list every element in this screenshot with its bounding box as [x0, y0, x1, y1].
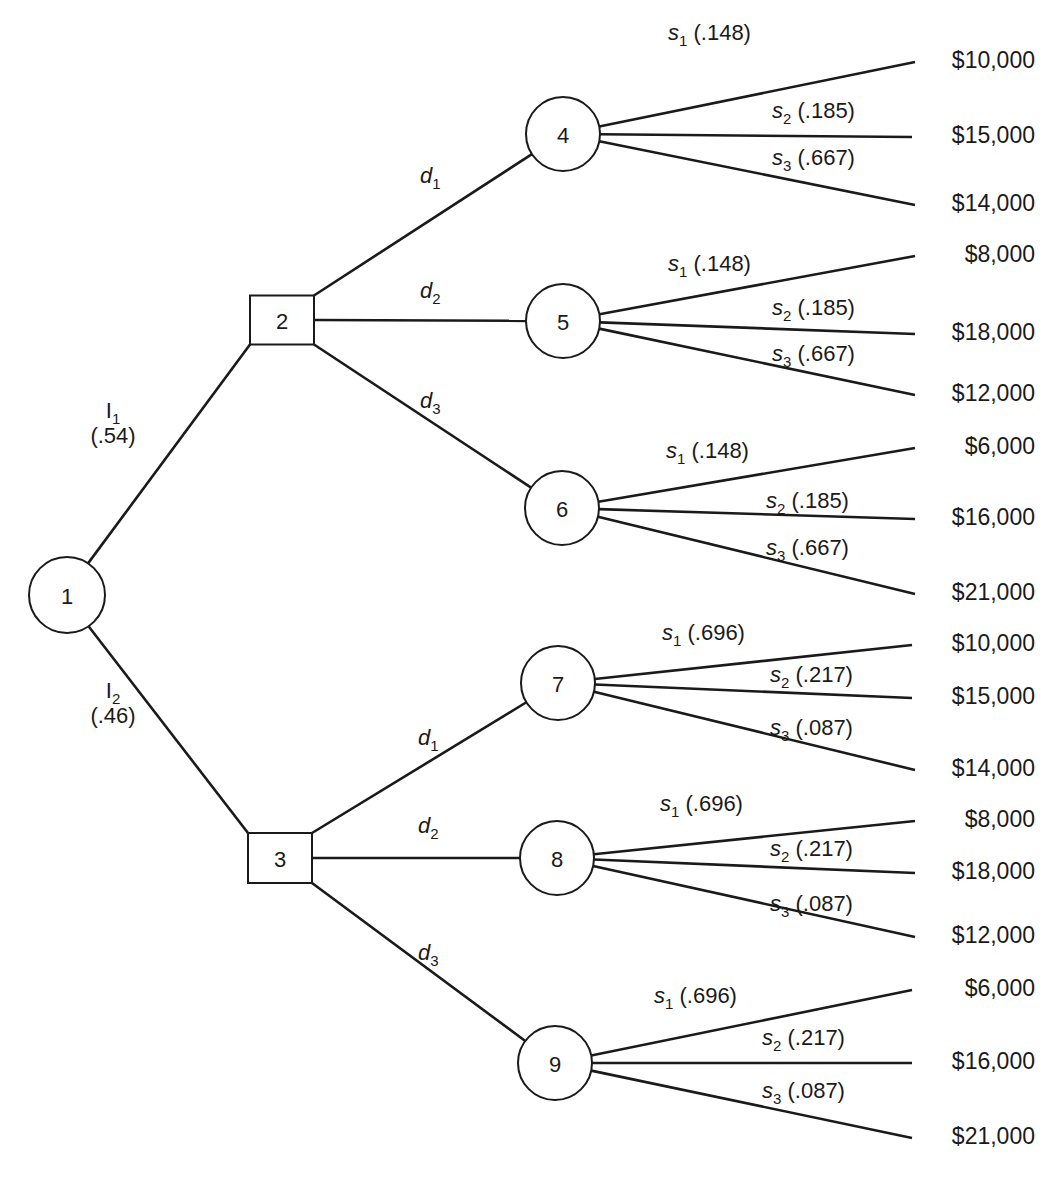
indicator-branch-2	[89, 626, 248, 833]
state-subscript: 1	[673, 632, 681, 649]
state-subscript: 3	[781, 727, 789, 744]
state-symbol: s	[668, 251, 679, 276]
state-label-s3: s3 (.087)	[770, 717, 853, 739]
state-branch-4-s3	[599, 141, 915, 205]
decision-symbol: d	[418, 940, 430, 965]
payoff-value: $8,000	[905, 808, 1035, 831]
state-probability: (.217)	[795, 662, 852, 687]
state-symbol: s	[772, 145, 783, 170]
state-probability: (.148)	[693, 251, 750, 276]
state-branch-9-s3	[591, 1071, 912, 1138]
node-number: 9	[549, 1052, 561, 1077]
state-subscript: 3	[781, 903, 789, 920]
state-symbol: s	[770, 836, 781, 861]
state-symbol: s	[660, 791, 671, 816]
state-subscript: 1	[679, 32, 687, 49]
payoff-value: $14,000	[905, 192, 1035, 215]
decision-branch-2-5	[314, 320, 526, 321]
payoff-value: $12,000	[905, 382, 1035, 405]
node-number: 6	[556, 497, 568, 522]
state-label-s1: s1 (.696)	[660, 793, 743, 815]
payoff-value: $8,000	[905, 243, 1035, 266]
state-probability: (.185)	[797, 295, 854, 320]
state-probability: (.696)	[687, 620, 744, 645]
state-subscript: 3	[783, 353, 791, 370]
payoff-value: $21,000	[905, 581, 1035, 604]
decision-subscript: 2	[430, 825, 438, 842]
state-symbol: s	[770, 891, 781, 916]
decision-subscript: 1	[430, 737, 438, 754]
state-branch-4-s2	[600, 134, 912, 137]
state-label-s2: s2 (.217)	[762, 1027, 845, 1049]
state-symbol: s	[772, 341, 783, 366]
decision-symbol: d	[420, 163, 432, 188]
state-probability: (.217)	[787, 1025, 844, 1050]
state-symbol: s	[668, 20, 679, 45]
payoff-value: $18,000	[905, 860, 1035, 883]
node-number: 8	[551, 847, 563, 872]
payoff-value: $10,000	[905, 632, 1035, 655]
indicator-branch-1	[88, 345, 250, 564]
state-branch-8-s3	[593, 866, 915, 937]
node-number: 7	[552, 672, 564, 697]
node-number: 2	[276, 309, 288, 334]
indicator-probability: (.46)	[90, 703, 135, 728]
state-label-s3: s3 (.087)	[762, 1080, 845, 1102]
state-probability: (.148)	[693, 20, 750, 45]
state-branch-5-s3	[599, 329, 915, 395]
decision-branch-2-6	[314, 345, 531, 488]
state-branch-7-s2	[595, 685, 912, 698]
decision-tree: 123456789	[0, 0, 1057, 1190]
state-probability: (.696)	[679, 983, 736, 1008]
state-branch-8-s2	[594, 860, 915, 873]
decision-label-d1: d1	[420, 165, 441, 187]
state-subscript: 2	[783, 307, 791, 324]
state-label-s2: s2 (.217)	[770, 838, 853, 860]
decision-subscript: 3	[430, 952, 438, 969]
state-symbol: s	[766, 488, 777, 513]
state-subscript: 2	[777, 500, 785, 517]
payoff-value: $16,000	[905, 1050, 1035, 1073]
payoff-value: $18,000	[905, 321, 1035, 344]
state-symbol: s	[772, 98, 783, 123]
state-branch-6-s1	[598, 448, 915, 502]
state-label-s1: s1 (.148)	[666, 440, 749, 462]
payoff-value: $10,000	[905, 49, 1035, 72]
state-label-s3: s3 (.667)	[772, 147, 855, 169]
state-probability: (.185)	[797, 98, 854, 123]
state-label-s1: s1 (.148)	[668, 253, 751, 275]
decision-symbol: d	[420, 388, 432, 413]
state-branch-5-s1	[599, 256, 915, 314]
state-label-s3: s3 (.667)	[766, 537, 849, 559]
state-branch-8-s1	[594, 821, 915, 854]
payoff-value: $14,000	[905, 757, 1035, 780]
decision-label-d2: d2	[420, 280, 441, 302]
state-symbol: s	[772, 295, 783, 320]
state-probability: (.696)	[685, 791, 742, 816]
state-branch-9-s1	[591, 990, 912, 1056]
payoff-value: $16,000	[905, 506, 1035, 529]
node-number: 3	[274, 847, 286, 872]
state-probability: (.217)	[795, 836, 852, 861]
state-probability: (.087)	[787, 1078, 844, 1103]
state-subscript: 2	[783, 110, 791, 127]
tree-edges	[88, 62, 915, 1138]
decision-label-d3: d3	[420, 390, 441, 412]
state-subscript: 3	[777, 547, 785, 564]
state-subscript: 1	[665, 995, 673, 1012]
payoff-value: $6,000	[905, 435, 1035, 458]
indicator-label-2: I2(.46)	[73, 678, 153, 729]
node-number: 4	[557, 123, 569, 148]
payoff-value: $21,000	[905, 1125, 1035, 1148]
decision-label-d2: d2	[418, 815, 439, 837]
state-subscript: 2	[781, 674, 789, 691]
state-symbol: s	[770, 662, 781, 687]
state-symbol: s	[654, 983, 665, 1008]
payoff-value: $15,000	[905, 124, 1035, 147]
decision-symbol: d	[418, 725, 430, 750]
state-probability: (.087)	[795, 715, 852, 740]
state-subscript: 3	[773, 1090, 781, 1107]
decision-label-d1: d1	[418, 727, 439, 749]
decision-symbol: d	[420, 278, 432, 303]
state-subscript: 2	[781, 848, 789, 865]
